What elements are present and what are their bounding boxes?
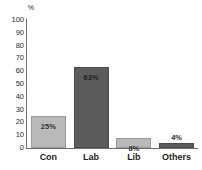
y-axis-tick-label: 10: [16, 131, 24, 139]
y-axis-tick-label: 20: [16, 118, 24, 126]
bar-lab[interactable]: 63%: [74, 67, 109, 148]
x-axis-category-label-lab: Lab: [70, 152, 113, 163]
y-axis-unit-label: %: [20, 4, 34, 12]
bar-lib[interactable]: 8%: [116, 138, 151, 148]
plot-area: 1009080706050403020100 25%63%8%4%: [27, 20, 198, 148]
y-axis-tick-label: 30: [16, 106, 24, 114]
bar-slot: 4%: [159, 20, 194, 148]
y-axis-tick-label: 80: [16, 42, 24, 50]
y-axis-tick-label: 70: [16, 54, 24, 62]
x-axis-line: [26, 148, 198, 149]
bar-value-label: 4%: [160, 133, 193, 142]
y-axis-tick-label: 50: [16, 80, 24, 88]
bar-value-label: 25%: [32, 122, 65, 131]
bar-others[interactable]: 4%: [159, 143, 194, 148]
bar-con[interactable]: 25%: [31, 116, 66, 148]
bar-slot: 25%: [31, 20, 66, 148]
bar-value-label: 63%: [75, 73, 108, 82]
x-axis-category-label-con: Con: [27, 152, 70, 163]
bar-chart: % 1009080706050403020100 25%63%8%4% ConL…: [0, 0, 202, 170]
y-axis-tick-label: 90: [16, 29, 24, 37]
y-axis-tick-label: 40: [16, 93, 24, 101]
y-axis-tick-label: 100: [11, 16, 24, 24]
bar-slot: 8%: [116, 20, 151, 148]
x-axis-category-label-others: Others: [155, 152, 198, 163]
y-axis-tick-label: 0: [20, 144, 24, 152]
x-axis-category-label-lib: Lib: [113, 152, 156, 163]
y-axis-tick-label: 60: [16, 67, 24, 75]
bar-slot: 63%: [74, 20, 109, 148]
bar-series: 25%63%8%4%: [27, 20, 198, 148]
